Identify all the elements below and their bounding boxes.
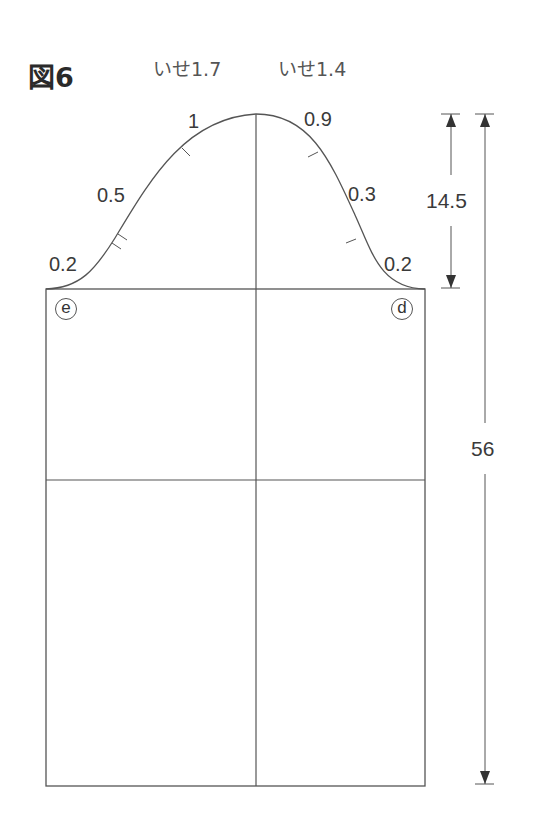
notch-tick [308, 152, 318, 157]
ease-left-label: いせ1.7 [153, 54, 221, 81]
sleeve-body-rect [46, 289, 425, 786]
sleeve-pattern-drawing [0, 0, 537, 828]
notch-tick [118, 234, 127, 240]
arrow-down-icon [446, 275, 456, 288]
marker-e: e [55, 298, 77, 320]
curve-label-left-top: 1 [188, 111, 199, 131]
notch-tick [182, 148, 190, 156]
curve-label-left-mid: 0.5 [97, 185, 125, 205]
curve-label-right-mid: 0.3 [348, 184, 376, 204]
curve-label-left-low: 0.2 [49, 254, 77, 274]
arrow-up-icon [446, 114, 456, 127]
arrow-down-icon [480, 771, 490, 784]
cap-height-label: 14.5 [426, 190, 467, 211]
arrow-up-icon [480, 114, 490, 127]
notch-tick [346, 239, 356, 243]
figure-title: 図6 [28, 56, 74, 95]
notch-tick [112, 243, 121, 249]
ease-right-label: いせ1.4 [278, 54, 346, 81]
curve-label-right-top: 0.9 [304, 109, 332, 129]
marker-d: d [391, 298, 413, 320]
curve-label-right-low: 0.2 [384, 254, 412, 274]
total-length-label: 56 [471, 438, 494, 459]
